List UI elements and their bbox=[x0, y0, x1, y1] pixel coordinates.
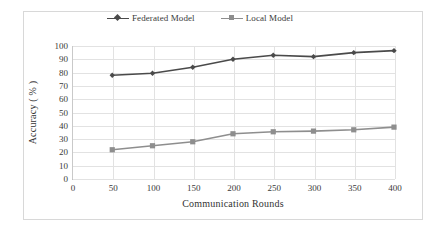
gridline-vertical bbox=[234, 46, 235, 179]
square-marker-icon bbox=[221, 14, 243, 23]
x-axis-tick-label: 50 bbox=[109, 184, 118, 193]
gridline-horizontal bbox=[73, 179, 395, 180]
legend-label: Federated Model bbox=[132, 13, 195, 23]
y-axis-tick-label: 70 bbox=[59, 81, 68, 90]
x-axis-tick-label: 100 bbox=[147, 184, 161, 193]
gridline-vertical bbox=[355, 46, 356, 179]
y-axis-tick-label: 90 bbox=[59, 55, 68, 64]
x-axis-tick-label: 350 bbox=[348, 184, 362, 193]
x-axis-tick-label: 300 bbox=[308, 184, 322, 193]
x-axis-tick-label: 250 bbox=[268, 184, 282, 193]
chart-legend: Federated ModelLocal Model bbox=[0, 13, 400, 23]
y-axis-title: Accuracy ( % ) bbox=[26, 46, 40, 179]
gridline-vertical bbox=[315, 46, 316, 179]
legend-label: Local Model bbox=[246, 13, 293, 23]
diamond-marker-icon bbox=[107, 14, 129, 23]
y-axis-tick-label: 50 bbox=[59, 108, 68, 117]
chart-figure: Federated ModelLocal Model Accuracy ( % … bbox=[0, 0, 447, 239]
y-axis-tick-label: 80 bbox=[59, 68, 68, 77]
gridline-vertical bbox=[395, 46, 396, 179]
y-axis-tick-label: 100 bbox=[55, 42, 69, 51]
y-axis-title-text: Accuracy ( % ) bbox=[28, 81, 39, 145]
y-axis-tick-label: 40 bbox=[59, 121, 68, 130]
gridline-vertical bbox=[274, 46, 275, 179]
y-axis-tick-label: 20 bbox=[59, 148, 68, 157]
x-axis-tick-label: 200 bbox=[227, 184, 241, 193]
y-axis-tick-label: 60 bbox=[59, 95, 68, 104]
y-axis-tick-label: 0 bbox=[64, 175, 69, 184]
x-axis-title: Communication Rounds bbox=[72, 198, 394, 209]
legend-item[interactable]: Federated Model bbox=[107, 13, 195, 23]
gridline-vertical bbox=[194, 46, 195, 179]
x-axis-tick-label: 0 bbox=[71, 184, 76, 193]
legend-item[interactable]: Local Model bbox=[221, 13, 293, 23]
y-axis-tick-label: 10 bbox=[59, 161, 68, 170]
plot-area: 0102030405060708090100050100150200250300… bbox=[72, 46, 395, 180]
x-axis-tick-label: 150 bbox=[187, 184, 201, 193]
gridline-vertical bbox=[113, 46, 114, 179]
gridlines: 0102030405060708090100050100150200250300… bbox=[73, 46, 395, 179]
gridline-vertical bbox=[154, 46, 155, 179]
y-axis-tick-label: 30 bbox=[59, 135, 68, 144]
x-axis-tick-label: 400 bbox=[388, 184, 402, 193]
